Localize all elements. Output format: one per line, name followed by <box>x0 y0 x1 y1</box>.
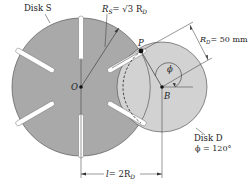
point-b <box>160 85 164 89</box>
disk-s-label-leader <box>45 14 50 23</box>
l-sub: D <box>129 173 135 180</box>
pin-label: P <box>137 38 144 48</box>
rd-ext-line-rim <box>201 58 212 64</box>
l-eq: = 2R <box>109 169 131 179</box>
rd-value: = 50 mm <box>210 35 248 44</box>
rs-label: RS= √3 RD <box>101 4 147 15</box>
pin-p <box>139 49 144 54</box>
l-arrow-right <box>157 173 162 176</box>
point-o <box>79 85 83 89</box>
slot-top <box>79 16 84 60</box>
geneva-mechanism-diagram: Disk S RS= √3 RD P O B ϕ RD= 50 mm Disk … <box>0 0 250 183</box>
disk-s-label: Disk S <box>24 3 52 13</box>
rs-eq-sub: D <box>141 8 147 15</box>
l-arrow-left <box>81 173 86 176</box>
rd-label: RD= 50 mm <box>199 35 248 45</box>
disk-d-label: Disk D <box>194 133 223 143</box>
rd-symbol: R <box>199 35 206 44</box>
center-o-label: O <box>71 82 78 92</box>
disk-d-angle-value: ϕ = 120° <box>195 144 232 153</box>
center-b-label: B <box>163 91 170 101</box>
phi-symbol-label: ϕ <box>167 64 173 74</box>
rs-eq: = √3 R <box>113 4 143 14</box>
